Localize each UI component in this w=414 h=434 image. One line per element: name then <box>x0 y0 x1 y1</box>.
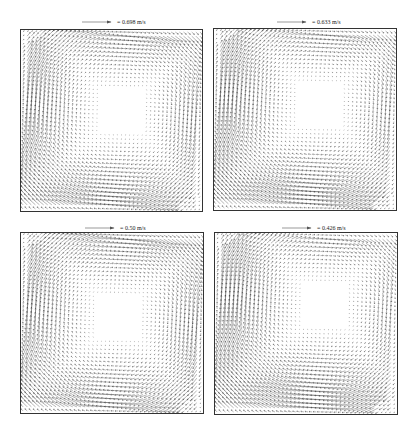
reference-speed-label: = 0.50 m/s <box>120 225 146 231</box>
reference-arrow-icon <box>277 19 307 25</box>
vector-plot-top-right <box>213 28 397 211</box>
reference-arrow-icon <box>82 19 112 25</box>
vector-plot-top-left <box>20 29 203 212</box>
velocity-vectors <box>21 30 202 211</box>
reference-speed-label: = 0.698 m/s <box>117 19 146 25</box>
reference-arrow-icon <box>85 225 115 231</box>
velocity-vectors <box>215 233 397 414</box>
velocity-vectors <box>214 29 396 210</box>
vector-plot-bottom-left <box>20 232 204 414</box>
reference-speed-label: = 0.633 m/s <box>312 19 341 25</box>
reference-speed-label: = 0.426 m/s <box>317 225 346 231</box>
vector-plot-bottom-right <box>214 232 398 415</box>
reference-vector-legend: = 0.633 m/s <box>277 17 341 27</box>
reference-vector-legend: = 0.698 m/s <box>82 17 146 27</box>
reference-arrow-icon <box>282 225 312 231</box>
velocity-vectors <box>21 233 203 413</box>
